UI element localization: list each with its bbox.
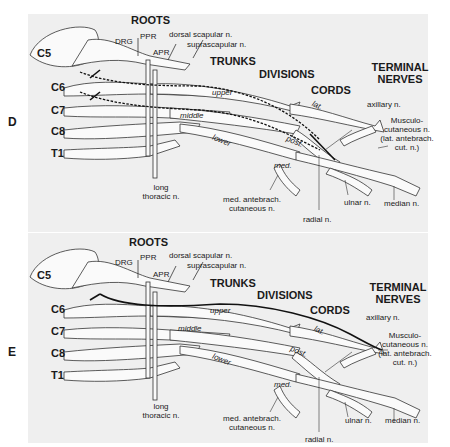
suprascapular-label: suprascapular n.: [187, 261, 246, 270]
terminal-header-line1: TERMINAL: [364, 61, 436, 73]
root-label: C8: [51, 347, 65, 359]
med-antebrach-label: med. antebrach. cutaneous n.: [214, 414, 290, 432]
terminal-header-line2: NERVES: [362, 293, 434, 305]
med-antebrach-line1: med. antebrach.: [214, 414, 290, 423]
root-label: C6: [51, 303, 65, 315]
middle-trunk-label: middle: [178, 324, 202, 333]
ulnar-label: ulnar n.: [345, 416, 372, 425]
root-label: C7: [51, 104, 65, 116]
trunks-header: TRUNKS: [210, 277, 256, 289]
axillary-label: axillary n.: [367, 100, 401, 109]
musculo-line3: (lat. antebrach.: [370, 349, 440, 358]
med-antebrach-line2: cutaneous n.: [214, 204, 290, 213]
divisions-header: DIVISIONS: [259, 68, 315, 80]
long-thoracic-line2: thoracic n.: [136, 192, 186, 201]
long-thoracic-line1: long: [136, 183, 186, 192]
root-label: C5: [37, 47, 51, 59]
musculo-line2: cutaneous n.: [370, 340, 440, 349]
musculo-line1: Musculo-: [372, 116, 442, 125]
med-antebrach-line2: cutaneous n.: [214, 423, 290, 432]
long-thoracic-line1: long: [136, 402, 186, 411]
terminal-header-line1: TERMINAL: [362, 281, 434, 293]
apr-label: APR: [153, 48, 169, 57]
upper-trunk-label: upper: [212, 88, 232, 97]
ppr-label: PPR: [140, 32, 156, 41]
root-label: T1: [51, 147, 64, 159]
musculocutaneous-label: Musculo- cutaneous n. (lat. antebrach. c…: [372, 116, 442, 152]
ulnar-label: ulnar n.: [344, 198, 371, 207]
dorsal-scapular-label: dorsal scapular n.: [169, 30, 232, 39]
drg-label: DRG: [115, 37, 133, 46]
trunks-header: TRUNKS: [210, 55, 256, 67]
axillary-label: axillary n.: [366, 313, 400, 322]
root-label: C6: [51, 81, 65, 93]
dorsal-scapular-label: dorsal scapular n.: [169, 251, 232, 260]
apr-label: APR: [153, 270, 169, 279]
long-thoracic-label: long thoracic n.: [136, 183, 186, 201]
long-thoracic-label: long thoracic n.: [136, 402, 186, 420]
musculo-line3: (lat. antebrach.: [372, 134, 442, 143]
musculo-line1: Musculo-: [370, 331, 440, 340]
radial-label: radial n.: [305, 435, 333, 444]
middle-trunk-label: middle: [180, 111, 204, 120]
divisions-header: DIVISIONS: [257, 289, 313, 301]
cords-header: CORDS: [311, 84, 351, 96]
root-label: C8: [51, 125, 65, 137]
medial-cord-label: med.: [274, 380, 292, 389]
upper-trunk-label: upper: [210, 306, 230, 315]
musculocutaneous-label: Musculo- cutaneous n. (lat. antebrach. c…: [370, 331, 440, 367]
roots-header: ROOTS: [131, 14, 170, 26]
terminal-header-line2: NERVES: [364, 73, 436, 85]
terminal-nerves-header: TERMINAL NERVES: [362, 281, 434, 305]
root-label: T1: [51, 369, 64, 381]
median-label: median n.: [385, 416, 420, 425]
musculo-line4: cut. n.): [370, 358, 440, 367]
med-antebrach-line1: med. antebrach.: [214, 195, 290, 204]
musculo-line2: cutaneous n.: [372, 125, 442, 134]
terminal-nerves-header: TERMINAL NERVES: [364, 61, 436, 85]
ppr-label: PPR: [140, 253, 156, 262]
root-label: C5: [37, 269, 51, 281]
medial-cord-label: med.: [274, 161, 292, 170]
long-thoracic-line2: thoracic n.: [136, 411, 186, 420]
drg-label: DRG: [115, 258, 133, 267]
roots-header: ROOTS: [129, 236, 168, 248]
root-label: C7: [51, 325, 65, 337]
med-antebrach-label: med. antebrach. cutaneous n.: [214, 195, 290, 213]
median-label: median n.: [384, 199, 419, 208]
cords-header: CORDS: [310, 304, 350, 316]
musculo-line4: cut. n.): [372, 143, 442, 152]
suprascapular-label: suprascapular n.: [187, 40, 246, 49]
